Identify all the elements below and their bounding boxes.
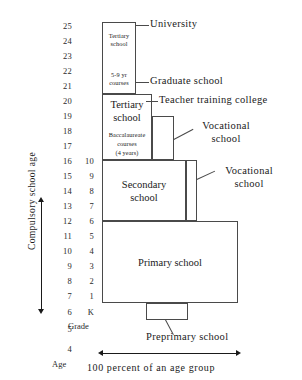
grade-tick: 2	[78, 277, 94, 286]
callout-teacher-training-college: Teacher training college	[159, 94, 268, 107]
tertiary-lower-line2: school	[103, 112, 151, 124]
grade-tick: 7	[78, 202, 94, 211]
age-tick: 7	[56, 292, 72, 301]
callout-vocational-upper-line1: Vocational	[202, 120, 250, 131]
grade-tick: K	[78, 308, 94, 317]
age-tick: 21	[56, 82, 72, 91]
box-tertiary-lower: Tertiary school Baccalaureate courses (4…	[102, 94, 152, 160]
age-tick: 11	[56, 232, 72, 241]
tertiary-upper-line2: school	[103, 40, 135, 47]
age-tick: 18	[56, 127, 72, 136]
grade-axis-caption: Grade	[68, 322, 89, 331]
grade-tick: 6	[78, 217, 94, 226]
age-tick: 12	[56, 217, 72, 226]
age-tick: 10	[56, 247, 72, 256]
age-tick: 13	[56, 202, 72, 211]
age-tick: 19	[56, 112, 72, 121]
age-tick: 4	[56, 345, 72, 354]
callout-vocational-lower-line2: school	[234, 178, 263, 189]
primary-label: Primary school	[103, 257, 237, 269]
callout-vocational-upper: Vocational school	[183, 120, 269, 145]
age-tick: 6	[56, 308, 72, 317]
tertiary-upper-line1: Tertiary	[103, 32, 135, 39]
age-tick: 23	[56, 52, 72, 61]
grade-tick: 8	[78, 187, 94, 196]
age-tick: 15	[56, 172, 72, 181]
bottom-caption: 100 percent of an age group	[0, 362, 302, 373]
tertiary-upper-line4: courses	[103, 79, 135, 86]
secondary-line1: Secondary	[103, 179, 185, 191]
tertiary-lower-line4: courses	[103, 140, 151, 147]
tertiary-lower-line3: Baccalaureate	[103, 131, 151, 138]
age-tick: 16	[56, 157, 72, 166]
box-preprimary	[146, 303, 188, 320]
box-vocational-lower	[186, 160, 197, 221]
box-secondary: Secondary school	[102, 160, 186, 221]
callout-vocational-lower-line1: Vocational	[225, 165, 273, 176]
grade-tick: 1	[78, 292, 94, 301]
tertiary-lower-line1: Tertiary	[103, 99, 151, 111]
age-tick: 17	[56, 142, 72, 151]
callout-preprimary-school: Preprimary school	[146, 331, 228, 344]
compulsory-school-age-label: Compulsory school age	[27, 141, 37, 261]
age-tick: 25	[56, 22, 72, 31]
grade-tick: 9	[78, 172, 94, 181]
age-tick: 22	[56, 67, 72, 76]
grade-tick: 4	[78, 247, 94, 256]
secondary-line2: school	[103, 192, 185, 204]
box-primary: Primary school	[102, 221, 238, 303]
grade-tick: 3	[78, 262, 94, 271]
box-tertiary-upper: Tertiary school 5-9 yr courses	[102, 22, 136, 94]
age-tick: 20	[56, 97, 72, 106]
age-tick: 14	[56, 187, 72, 196]
age-tick: 24	[56, 37, 72, 46]
tertiary-upper-line3: 5-9 yr	[103, 71, 135, 78]
age-tick: 8	[56, 277, 72, 286]
age-tick: 9	[56, 262, 72, 271]
tertiary-lower-line5: (4 years)	[103, 149, 151, 156]
callout-graduate-school: Graduate school	[150, 75, 223, 88]
box-vocational-upper	[152, 116, 174, 160]
grade-tick: 10	[78, 157, 94, 166]
grade-tick: 5	[78, 232, 94, 241]
callout-vocational-lower: Vocational school	[206, 165, 292, 190]
callout-university: University	[150, 18, 197, 31]
callout-vocational-upper-line2: school	[211, 133, 240, 144]
education-system-diagram: 25 24 23 22 21 20 19 18 17 16 15 14 13 1…	[0, 0, 302, 380]
